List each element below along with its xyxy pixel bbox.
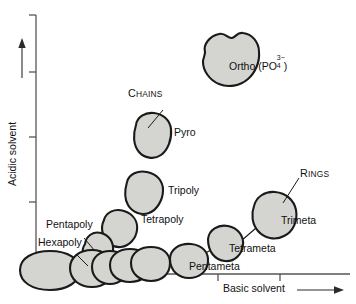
spot-pyro [134,113,171,158]
label-trimeta: Trimeta [281,215,316,226]
label-ortho-text: Ortho (PO [229,60,277,72]
label-ortho: Ortho (PO3−4) [229,60,287,72]
label-tetrameta: Tetrameta [229,243,276,254]
label-pentameta: Pentameta [189,261,240,272]
chromatogram-plot [0,0,356,304]
spot-bottom-blob-5 [131,247,170,281]
label-pentapoly: Pentapoly [46,219,93,230]
label-pyro: Pyro [174,127,196,138]
label-rings: RINGS [300,168,329,179]
ortho-charge-icon: 3−4 [277,60,284,70]
label-tripoly: Tripoly [168,185,199,196]
label-chains: CHAINS [128,88,163,99]
y-axis-label: Acidic solvent [6,106,18,202]
acidic-solvent-arrow-icon [18,38,25,78]
spot-tripoly [125,171,163,214]
chromatogram-figure: Ortho (PO3−4) CHAINS Pyro Tripoly Tetrap… [0,0,356,304]
x-axis-label: Basic solvent [223,282,285,294]
basic-solvent-arrow-icon [297,286,344,293]
label-tetrapoly: Tetrapoly [141,214,184,225]
label-hexapoly: Hexapoly [38,237,82,248]
